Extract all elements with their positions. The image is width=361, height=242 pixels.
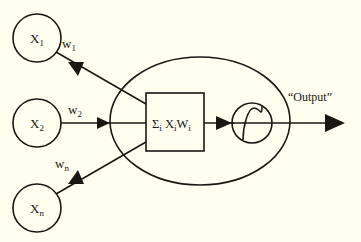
- output-label: “Output”: [288, 90, 332, 104]
- weight-label-wn: wn: [55, 156, 69, 173]
- arrowhead-output: [325, 114, 345, 132]
- neuron-diagram-svg: X1 X2 Xn w1 w2 wn Σi XiWi “Output”: [0, 0, 361, 242]
- neuron-diagram-canvas: X1 X2 Xn w1 w2 wn Σi XiWi “Output”: [0, 0, 361, 242]
- arrowhead-x2: [97, 117, 110, 129]
- connection-line-xn: [56, 142, 146, 194]
- input-node-label-xn: Xn: [30, 201, 44, 218]
- arrowhead-x1: [68, 62, 84, 76]
- weight-label-w2: w2: [68, 102, 82, 119]
- arrowhead-xn: [68, 170, 84, 184]
- input-node-label-x1: X1: [30, 31, 44, 48]
- neuron-body-ellipse: [110, 57, 290, 185]
- arrowhead-activation: [216, 116, 232, 130]
- weight-label-w1: w1: [62, 36, 76, 53]
- input-node-label-x2: X2: [30, 116, 44, 133]
- summation-formula: Σi XiWi: [152, 117, 191, 133]
